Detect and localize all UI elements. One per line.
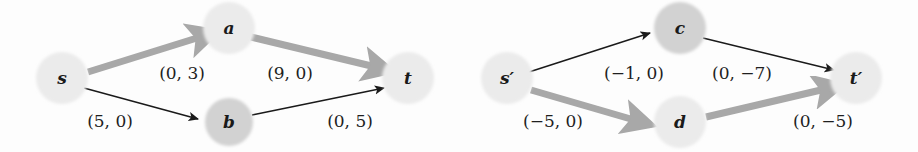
edge-label-b-t: (0, 5) [327, 111, 373, 131]
left-graph: s a b t (0, 3) (9, 0) (5, 0) (0, 5) [36, 2, 434, 146]
node-label-d: d [674, 112, 686, 132]
right-graph: s′ c d t′ (−1, 0) (0, −7) (−5, 0) (0, −5… [481, 2, 882, 148]
node-label-t-prime: t′ [850, 68, 863, 88]
edge-label-c-tp: (0, −7) [712, 63, 772, 83]
edge-label-d-tp: (0, −5) [793, 111, 853, 131]
node-label-t: t [404, 68, 412, 88]
node-label-c: c [675, 18, 686, 38]
node-label-b: b [223, 112, 235, 132]
graph-canvas: s a b t (0, 3) (9, 0) (5, 0) (0, 5) [0, 0, 918, 152]
edge-label-sp-d: (−5, 0) [523, 111, 583, 131]
edge-label-s-a: (0, 3) [159, 63, 205, 83]
node-label-s: s [56, 68, 67, 88]
node-label-s-prime: s′ [499, 68, 515, 88]
edge-label-a-t: (9, 0) [267, 63, 313, 83]
graph-figure: s a b t (0, 3) (9, 0) (5, 0) (0, 5) [0, 0, 918, 152]
edge-label-s-b: (5, 0) [87, 111, 133, 131]
edge-label-sp-c: (−1, 0) [604, 63, 664, 83]
node-label-a: a [223, 18, 234, 38]
